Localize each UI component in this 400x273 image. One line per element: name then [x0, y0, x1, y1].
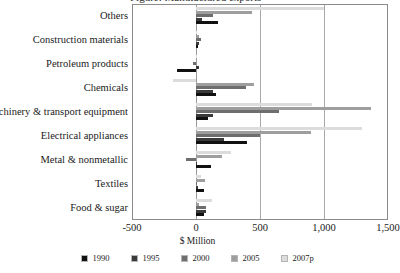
- bar: [196, 179, 205, 182]
- legend-label: 1990: [92, 253, 109, 263]
- bar: [196, 155, 222, 158]
- legend-label: 2007p: [292, 253, 313, 263]
- bar: [173, 79, 196, 82]
- y-axis-label: Machinery & transport equipment: [0, 106, 128, 118]
- bar: [186, 158, 196, 161]
- bar: [177, 69, 196, 72]
- legend-label: 2005: [242, 253, 259, 263]
- bar: [196, 59, 197, 62]
- bars-layer: [132, 4, 388, 220]
- bar: [196, 213, 204, 216]
- bar-group: [132, 28, 388, 52]
- legend-item[interactable]: 2007p: [281, 253, 313, 263]
- x-axis-tick-label: 1,000: [312, 222, 336, 233]
- bar-group: [132, 124, 388, 148]
- legend-label: 2000: [192, 253, 209, 263]
- y-axis-label: Electrical appliances: [41, 130, 128, 142]
- y-axis-label: Petroleum products: [46, 58, 128, 70]
- legend-label: 1995: [142, 253, 159, 263]
- y-axis-label: Food & sugar: [70, 202, 128, 214]
- chart-title: Figure: Manufactured exports: [130, 0, 380, 3]
- y-axis-label: Construction materials: [33, 34, 128, 46]
- legend-item[interactable]: 1990: [81, 253, 109, 263]
- bar-group: [132, 100, 388, 124]
- bar: [196, 189, 204, 192]
- x-axis-title: $ Million: [0, 236, 395, 246]
- x-axis-tick-label: 0: [193, 222, 198, 233]
- legend-item[interactable]: 2000: [181, 253, 209, 263]
- bar: [196, 21, 218, 24]
- legend-swatch-icon: [231, 255, 238, 262]
- x-axis-tick-label: -500: [122, 222, 141, 233]
- legend-swatch-icon: [181, 255, 188, 262]
- x-axis-tick-label: 1,500: [376, 222, 400, 233]
- bar: [196, 93, 216, 96]
- bar: [196, 165, 211, 168]
- bar-group: [132, 172, 388, 196]
- bar-group: [132, 4, 388, 28]
- y-axis-label: Metal & nonmetallic: [41, 154, 128, 166]
- y-axis-labels: OthersConstruction materialsPetroleum pr…: [0, 4, 130, 220]
- y-axis-label: Textiles: [95, 178, 128, 190]
- y-axis-label: Others: [100, 10, 128, 22]
- legend-item[interactable]: 2005: [231, 253, 259, 263]
- legend-swatch-icon: [131, 255, 138, 262]
- legend-swatch-icon: [81, 255, 88, 262]
- legend-swatch-icon: [281, 255, 288, 262]
- y-axis-label: Chemicals: [84, 82, 128, 94]
- bar: [196, 141, 247, 144]
- x-axis-tick-label: 500: [252, 222, 268, 233]
- bar: [196, 66, 199, 69]
- chart-legend: 19901995200020052007p: [0, 250, 395, 266]
- bar: [196, 45, 198, 48]
- bar-group: [132, 76, 388, 100]
- bar: [196, 117, 208, 120]
- legend-item[interactable]: 1995: [131, 253, 159, 263]
- bar-group: [132, 52, 388, 76]
- bar-group: [132, 196, 388, 220]
- bar-group: [132, 148, 388, 172]
